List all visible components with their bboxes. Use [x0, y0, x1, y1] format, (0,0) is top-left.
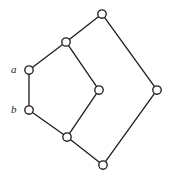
- graph-edge-n1-n5: [104, 17, 154, 86]
- graph-edge-n5-n8: [105, 93, 154, 161]
- vertex-label-b: b: [11, 104, 17, 115]
- graph-node-n3-a[interactable]: [25, 66, 33, 74]
- graph-node-n7[interactable]: [63, 133, 71, 141]
- graph-node-n4[interactable]: [95, 86, 103, 94]
- graph-edge-n7-n8: [70, 140, 99, 163]
- graph-node-n6-b[interactable]: [25, 106, 33, 114]
- graph-edge-n2-n4: [68, 45, 96, 86]
- graph-edge-n2-n3: [32, 45, 62, 68]
- graph-canvas: [0, 0, 170, 181]
- graph-node-n8[interactable]: [99, 161, 107, 169]
- graph-figure: ab: [0, 0, 170, 181]
- vertex-label-a: a: [11, 64, 17, 75]
- graph-edge-n4-n7: [69, 93, 96, 133]
- node-layer: [25, 10, 161, 169]
- graph-node-n5[interactable]: [153, 86, 161, 94]
- edge-layer: [29, 17, 155, 163]
- graph-edge-n6-n7: [32, 112, 63, 134]
- graph-node-n1[interactable]: [98, 10, 106, 18]
- graph-node-n2[interactable]: [62, 38, 70, 46]
- graph-edge-n1-n2: [69, 17, 98, 40]
